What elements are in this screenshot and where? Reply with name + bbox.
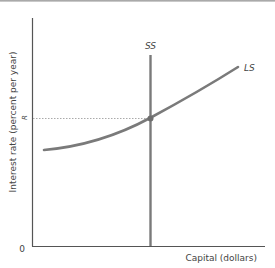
y-axis-label: Interest rate (percent per year): [8, 52, 18, 193]
r-tick-label: R: [21, 115, 29, 120]
ls-curve: [44, 67, 238, 150]
ss-label: SS: [145, 41, 156, 51]
equilibrium-point: [148, 116, 154, 122]
chart: SS LS R 0 Capital (dollars) Interest rat…: [0, 0, 275, 268]
origin-label: 0: [19, 244, 25, 254]
x-axis-label: Capital (dollars): [185, 253, 257, 263]
ls-label: LS: [244, 63, 255, 73]
